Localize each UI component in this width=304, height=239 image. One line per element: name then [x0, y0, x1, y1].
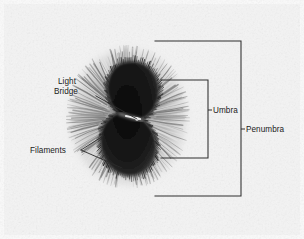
light-bridge-label-line2: Bridge	[54, 87, 78, 96]
filaments-label: Filaments	[30, 146, 66, 155]
light-bridge-label-line1: Light	[58, 77, 77, 86]
sunspot-diagram-canvas: Light Bridge Filaments Umbra Penumbra	[0, 0, 304, 239]
sunspot-figure: Light Bridge Filaments Umbra Penumbra	[0, 0, 304, 239]
penumbra-label: Penumbra	[246, 125, 285, 134]
umbra-label: Umbra	[213, 106, 238, 115]
